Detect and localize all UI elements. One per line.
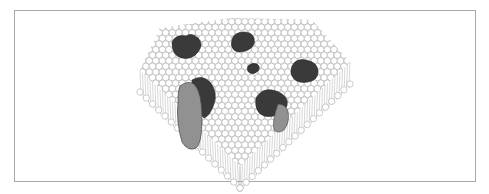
lipid-head <box>143 164 150 171</box>
lipid-head <box>291 158 298 165</box>
lipid-head <box>347 52 354 59</box>
lipid-head <box>357 114 364 121</box>
lipid-head <box>176 142 183 149</box>
lipid-head <box>291 13 298 20</box>
lipid-head <box>390 136 397 143</box>
lipid-head <box>360 130 367 137</box>
lipid-head <box>271 13 278 20</box>
lipid-head <box>267 156 273 162</box>
lipid-head <box>341 74 348 81</box>
lipid-head <box>149 101 155 107</box>
lipid-head <box>268 142 275 149</box>
lipid-head <box>159 170 166 177</box>
lipid-head <box>354 164 361 171</box>
lipid-head <box>367 97 374 104</box>
lipid-head <box>243 179 249 185</box>
lipid-head <box>357 91 364 98</box>
lipid-head <box>268 175 275 182</box>
lipid-head <box>136 164 143 171</box>
lipid-head <box>311 170 318 177</box>
lipid-head <box>136 142 143 149</box>
lipid-head <box>153 136 160 143</box>
lipid-head <box>384 136 391 143</box>
lipid-head <box>298 147 305 154</box>
lipid-head <box>139 170 146 177</box>
lipid-head <box>360 41 367 48</box>
lipid-head <box>149 142 156 149</box>
lipid-head <box>146 125 153 132</box>
lipid-head <box>199 149 205 155</box>
lipid-head <box>384 158 391 165</box>
lipid-head <box>334 30 341 37</box>
lipid-head <box>136 97 143 104</box>
lipid-head <box>304 136 311 143</box>
lipid-head <box>351 125 358 132</box>
lipid-head <box>172 13 179 20</box>
lipid-head <box>186 158 193 165</box>
lipid-head <box>324 24 331 31</box>
lipid-head <box>390 170 397 177</box>
lipid-head <box>374 142 381 149</box>
lipid-head <box>314 142 321 149</box>
lipid-head <box>231 179 237 185</box>
lipid-head <box>374 153 381 160</box>
lipid-head <box>357 69 364 76</box>
lipid-head <box>347 108 354 115</box>
lipid-head <box>278 158 285 165</box>
lipid-head <box>367 175 374 182</box>
lipid-head <box>169 18 176 25</box>
lipid-head <box>341 164 348 171</box>
lipid-head <box>351 136 358 143</box>
lipid-head <box>219 13 226 20</box>
lipid-head <box>387 97 394 104</box>
lipid-head <box>153 114 160 121</box>
lipid-head <box>192 13 199 20</box>
lipid-head <box>387 86 394 93</box>
lipid-head <box>311 136 318 143</box>
lipid-head <box>146 114 153 121</box>
lipid-head <box>321 18 328 25</box>
lipid-head <box>387 164 394 171</box>
lipid-head <box>133 136 140 143</box>
lipid-head <box>364 24 371 31</box>
lipid-head <box>248 153 255 160</box>
lipid-head <box>311 13 318 20</box>
lipid-head <box>172 136 179 143</box>
lipid-head <box>286 139 292 145</box>
lipid-head <box>374 119 381 126</box>
lipid-head <box>192 158 199 165</box>
lipid-head <box>288 119 295 126</box>
lipid-head <box>133 69 140 76</box>
lipid-head <box>377 158 384 165</box>
lipid-tail <box>292 116 293 142</box>
lipid-head <box>324 147 331 154</box>
lipid-head <box>232 170 239 177</box>
lipid-head <box>354 52 361 59</box>
lipid-head <box>374 63 381 70</box>
lipid-head <box>364 170 371 177</box>
lipid-head <box>258 13 265 20</box>
lipid-head <box>337 114 344 121</box>
lipid-head <box>364 13 371 20</box>
lipid-head <box>304 170 311 177</box>
lipid-head <box>377 125 384 132</box>
lipid-head <box>318 158 325 165</box>
lipid-tail <box>218 144 219 170</box>
lipid-head <box>374 97 381 104</box>
lipid-head <box>139 46 146 53</box>
lipid-head <box>159 125 166 132</box>
lipid-head <box>156 153 163 160</box>
lipid-head <box>139 136 146 143</box>
lipid-head <box>387 130 394 137</box>
lipid-head <box>172 170 179 177</box>
lipid-head <box>169 164 176 171</box>
lipid-head <box>360 119 367 126</box>
lipid-head <box>219 147 226 154</box>
lipid-head <box>304 158 311 165</box>
lipid-head <box>384 147 391 154</box>
lipid-head <box>337 136 344 143</box>
lipid-head <box>380 30 387 37</box>
transmembrane-protein-left-face <box>178 82 203 149</box>
lipid-head <box>327 30 334 37</box>
lipid-head <box>238 170 245 177</box>
